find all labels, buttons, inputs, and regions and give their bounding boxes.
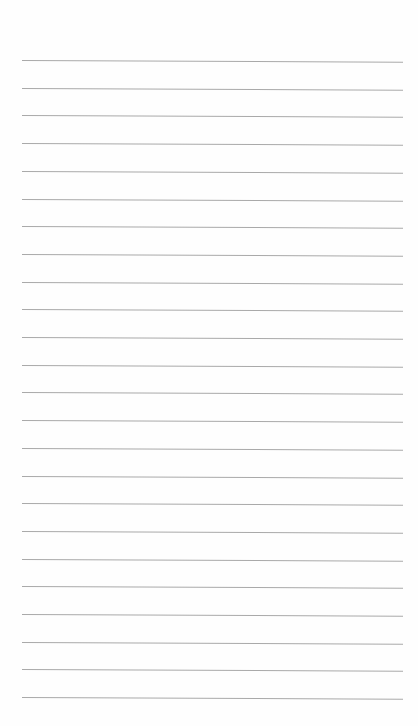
ruled-line (22, 531, 403, 534)
ruled-line (22, 143, 403, 146)
ruled-line (22, 586, 403, 589)
ruled-line (22, 365, 403, 368)
ruled-line (22, 282, 403, 285)
ruled-line (22, 697, 403, 700)
ruled-line (22, 171, 403, 174)
ruled-line (22, 392, 403, 395)
ruled-line (22, 476, 403, 479)
ruled-line (22, 115, 403, 118)
ruled-line (22, 199, 403, 202)
ruled-line (22, 448, 403, 451)
ruled-line (22, 226, 403, 229)
ruled-line (22, 254, 403, 257)
ruled-line (22, 60, 403, 63)
ruled-line (22, 420, 403, 423)
ruled-line (22, 337, 403, 340)
ruled-line (22, 669, 403, 672)
lined-paper (0, 0, 418, 726)
ruled-line (22, 309, 403, 312)
ruled-line (22, 559, 403, 562)
ruled-line (22, 503, 403, 506)
ruled-line (22, 88, 403, 91)
ruled-line (22, 614, 403, 617)
ruled-line (22, 642, 403, 645)
